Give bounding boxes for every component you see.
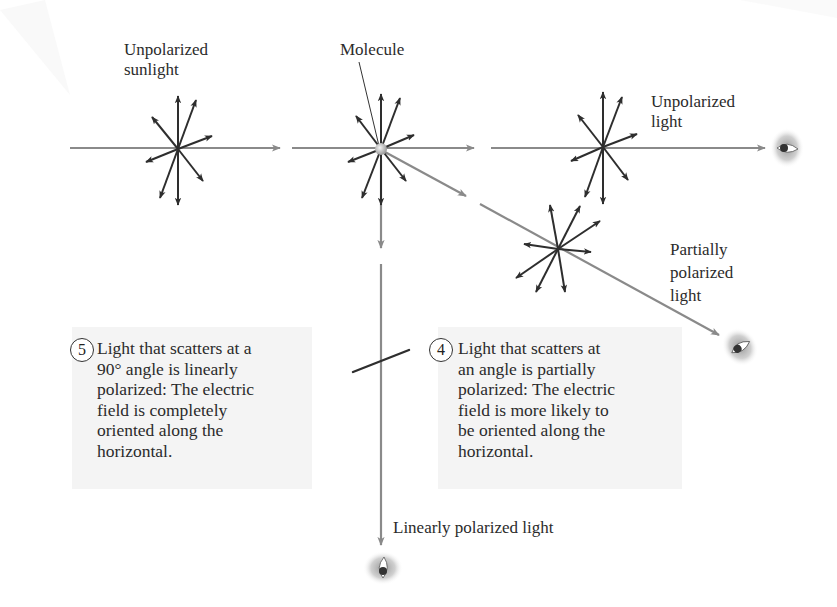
label-molecule: Molecule	[340, 40, 404, 60]
field-vectors-unpolarized-sunlight	[146, 96, 212, 205]
callout-line: an angle is partially	[458, 359, 615, 380]
callout-line: horizontal.	[97, 441, 254, 462]
callout-line: polarized: The electric	[458, 379, 615, 400]
label-line: Partially	[670, 238, 733, 261]
step-number-4: 4	[429, 338, 453, 362]
callout-line: 90° angle is linearly	[97, 359, 254, 380]
label-line: sunlight	[124, 60, 208, 80]
label-line: Unpolarized	[651, 92, 735, 112]
label-unpolarized-sunlight: Unpolarized sunlight	[124, 40, 208, 80]
label-unpolarized-light: Unpolarized light	[651, 92, 735, 132]
label-line: light	[651, 112, 735, 132]
callout-line: polarized: The electric	[97, 379, 254, 400]
callout-line: Light that scatters at a	[97, 338, 254, 359]
callout-text-linear: Light that scatters at a 90° angle is li…	[97, 338, 254, 461]
callout-line: Light that scatters at	[458, 338, 615, 359]
callout-line: be oriented along the	[458, 420, 615, 441]
diagonal-beam-short	[385, 152, 466, 196]
label-line: Unpolarized	[124, 40, 208, 60]
eye-icon-diagonal	[715, 321, 766, 373]
molecule-icon	[375, 143, 387, 155]
step-number-5: 5	[70, 338, 94, 362]
callout-line: field is completely	[97, 400, 254, 421]
eye-icon-bottom	[363, 551, 403, 585]
label-partially-polarized-light: Partially polarized light	[670, 238, 733, 307]
label-line: polarized	[670, 261, 733, 284]
eye-icon-right	[770, 128, 804, 168]
label-line: light	[670, 284, 733, 307]
callout-line: oriented along the	[97, 420, 254, 441]
callout-text-partial: Light that scatters at an angle is parti…	[458, 338, 615, 461]
callout-line: horizontal.	[458, 441, 615, 462]
field-vectors-partially-polarized	[516, 205, 600, 292]
callout-line: field is more likely to	[458, 400, 615, 421]
label-linearly-polarized-light: Linearly polarized light	[393, 518, 554, 538]
